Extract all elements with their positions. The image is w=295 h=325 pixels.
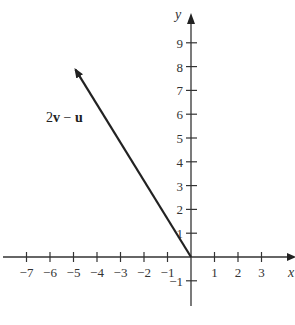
- x-axis-arrow-icon: [287, 253, 295, 261]
- x-tick-label: −7: [20, 265, 34, 280]
- x-tick-label: −6: [43, 265, 57, 280]
- y-tick-label: 3: [177, 179, 184, 194]
- x-tick-label: −4: [90, 265, 104, 280]
- y-axis-arrow-icon: [187, 13, 195, 24]
- y-axis-label: y: [173, 7, 182, 22]
- y-tick-label: 4: [177, 155, 184, 170]
- x-tick-label: 1: [211, 265, 218, 280]
- y-tick-label: 6: [177, 107, 184, 122]
- y-tick-label: 9: [177, 36, 184, 51]
- plot-canvas: −7−6−5−4−3−2−1123 987654321−1 x y 2v − u: [0, 0, 295, 325]
- x-tick-label: −5: [67, 265, 81, 280]
- vector-label: 2v − u: [46, 110, 83, 125]
- x-tick-label: −2: [137, 265, 151, 280]
- vector-2v-minus-u: [76, 70, 192, 257]
- x-tick-label: −3: [114, 265, 128, 280]
- y-tick-label: −1: [169, 274, 183, 289]
- x-ticks: −7−6−5−4−3−2−1123: [20, 252, 265, 280]
- y-tick-label: 5: [177, 131, 184, 146]
- y-tick-label: 7: [177, 83, 184, 98]
- vector-plot: −7−6−5−4−3−2−1123 987654321−1 x y 2v − u: [0, 0, 295, 325]
- y-tick-label: 2: [177, 202, 184, 217]
- x-tick-label: 3: [258, 265, 265, 280]
- y-tick-label: 8: [177, 60, 184, 75]
- x-tick-label: 2: [235, 265, 242, 280]
- x-axis-label: x: [287, 265, 295, 280]
- y-ticks: 987654321−1: [169, 36, 197, 289]
